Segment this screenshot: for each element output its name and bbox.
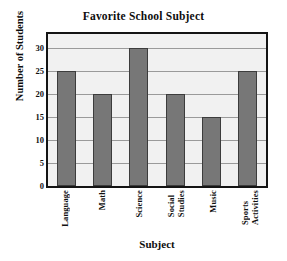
bar xyxy=(57,71,76,186)
x-tick-label: SocialStudies xyxy=(166,190,185,240)
bar xyxy=(93,94,112,186)
bar-chart-figure: Favorite School Subject Number of Studen… xyxy=(0,0,287,261)
bar-series xyxy=(48,34,266,186)
y-tick-label: 0 xyxy=(22,182,44,190)
x-tick-label: Math xyxy=(92,190,111,240)
y-tick-label: 15 xyxy=(22,113,44,121)
bar xyxy=(238,71,257,186)
y-tick-label: 5 xyxy=(22,159,44,167)
x-tick-label: SportsActivities xyxy=(240,190,259,240)
plot-area xyxy=(46,32,268,188)
y-tick-label: 20 xyxy=(22,90,44,98)
x-tick-label-line: Social xyxy=(166,190,176,217)
y-axis-tick-labels: 051015202530 xyxy=(22,0,44,261)
x-tick-label-line: Sports xyxy=(240,190,250,225)
x-tick-label-line: Science xyxy=(134,190,144,218)
x-tick-label-line: Math xyxy=(97,190,107,210)
bar xyxy=(129,48,148,186)
y-tick-label: 25 xyxy=(22,67,44,75)
plot-inner xyxy=(48,34,266,186)
x-axis-tick-labels: LanguageMathScienceSocialStudiesMusicSpo… xyxy=(46,190,268,240)
x-axis-title: Subject xyxy=(46,238,268,250)
bar xyxy=(202,117,221,186)
x-tick-label: Language xyxy=(55,190,74,240)
x-tick-label-line: Activities xyxy=(250,190,260,225)
y-tick-label: 10 xyxy=(22,136,44,144)
x-tick-label: Music xyxy=(203,190,222,240)
x-tick-label-line: Language xyxy=(60,190,70,227)
x-tick-label: Science xyxy=(129,190,148,240)
x-tick-label-line: Music xyxy=(208,190,218,213)
bar xyxy=(166,94,185,186)
x-tick-label-line: Studies xyxy=(176,190,186,217)
y-tick-label: 30 xyxy=(22,44,44,52)
